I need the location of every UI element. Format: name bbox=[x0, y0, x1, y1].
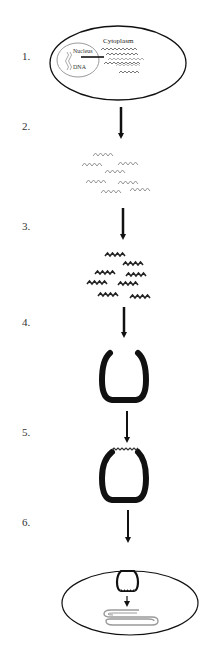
cell-step1: Nucleus DNA Cytoplasm bbox=[50, 26, 186, 100]
process-diagram: Nucleus DNA Cytoplasm bbox=[0, 0, 208, 664]
loaded-carrier bbox=[102, 448, 146, 500]
cytoplasm-rna-strands bbox=[101, 48, 144, 73]
carrier-in-cell bbox=[117, 571, 138, 591]
rna-fragments-light bbox=[82, 153, 150, 193]
rna-fragments-dark bbox=[87, 253, 150, 298]
nucleus-label: Nucleus bbox=[73, 48, 93, 54]
dna-label: DNA bbox=[73, 64, 87, 70]
open-carrier-shape bbox=[102, 353, 146, 400]
released-strand bbox=[104, 610, 158, 625]
loaded-rna-strand bbox=[112, 448, 138, 450]
target-cell bbox=[62, 571, 198, 635]
cytoplasm-label: Cytoplasm bbox=[103, 37, 134, 45]
